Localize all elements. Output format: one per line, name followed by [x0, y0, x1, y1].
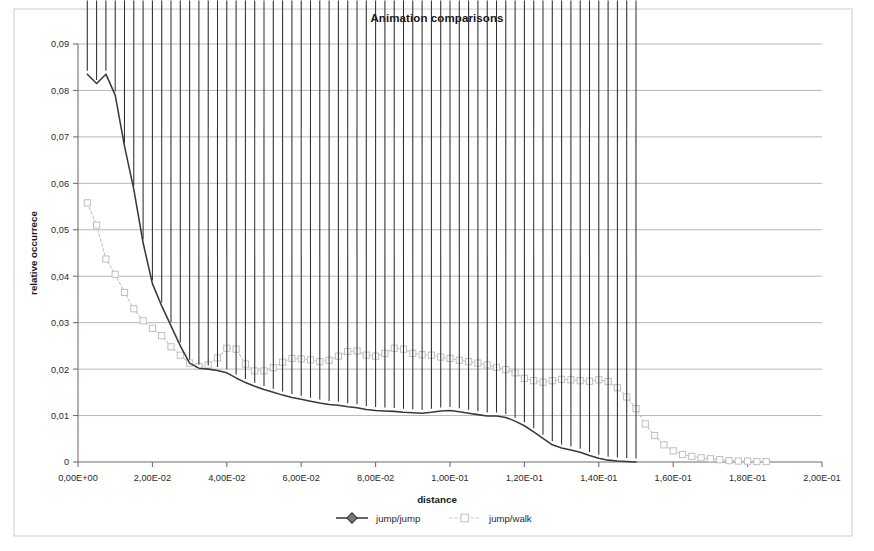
data-point-marker — [168, 344, 174, 350]
x-tick-label: 1,40E-01 — [580, 473, 617, 483]
x-tick-label: 0,00E+00 — [58, 473, 98, 483]
data-point-marker — [642, 421, 648, 427]
data-point-marker — [717, 457, 723, 463]
data-point-marker — [754, 458, 760, 464]
y-tick-label: 0,09 — [51, 39, 69, 49]
x-tick-label: 2,00E-02 — [134, 473, 171, 483]
legend-label-jump-walk: jump/walk — [488, 513, 532, 524]
y-tick-label: 0,01 — [51, 411, 69, 421]
animation-comparisons-chart: Animation comparisons 00,010,020,030,040… — [0, 0, 874, 551]
x-axis-label: distance — [417, 494, 457, 505]
data-point-marker — [652, 432, 658, 438]
data-point-marker — [661, 442, 667, 448]
data-point-marker — [726, 458, 732, 464]
x-tick-label: 1,80E-01 — [729, 473, 766, 483]
chart-container: Animation comparisons 00,010,020,030,040… — [0, 0, 874, 551]
data-point-marker — [103, 256, 109, 262]
legend-item-jump-walk[interactable]: jump/walk — [449, 513, 532, 524]
data-point-marker — [707, 456, 713, 462]
y-tick-label: 0,08 — [51, 86, 69, 96]
legend-marker-square-icon — [461, 514, 469, 522]
x-tick-label: 1,60E-01 — [655, 473, 692, 483]
data-point-marker — [84, 200, 90, 206]
chart-background — [0, 0, 874, 551]
data-point-marker — [679, 451, 685, 457]
x-tick-label: 2,00E-01 — [803, 473, 840, 483]
y-tick-label: 0,03 — [51, 318, 69, 328]
chart-title: Animation comparisons — [370, 12, 503, 24]
x-tick-label: 1,00E-01 — [431, 473, 468, 483]
y-tick-label: 0,06 — [51, 179, 69, 189]
y-tick-label: 0 — [64, 457, 69, 467]
data-point-marker — [159, 333, 165, 339]
legend-label-jump-jump: jump/jump — [375, 513, 420, 524]
y-axis-label: relative occurrece — [28, 211, 39, 295]
data-point-marker — [698, 455, 704, 461]
y-tick-label: 0,02 — [51, 365, 69, 375]
x-tick-label: 4,00E-02 — [208, 473, 245, 483]
x-tick-label: 1,20E-01 — [506, 473, 543, 483]
data-point-marker — [745, 458, 751, 464]
data-point-marker — [670, 448, 676, 454]
data-point-marker — [140, 318, 146, 324]
data-point-marker — [131, 306, 137, 312]
y-tick-label: 0,04 — [51, 272, 69, 282]
data-point-marker — [763, 458, 769, 464]
y-tick-label: 0,05 — [51, 225, 69, 235]
x-tick-label: 8,00E-02 — [357, 473, 394, 483]
data-point-marker — [177, 352, 183, 358]
data-point-marker — [121, 289, 127, 295]
data-point-marker — [112, 271, 118, 277]
y-tick-label: 0,07 — [51, 132, 69, 142]
x-tick-label: 6,00E-02 — [283, 473, 320, 483]
data-point-marker — [689, 453, 695, 459]
data-point-marker — [94, 222, 100, 228]
data-point-marker — [735, 458, 741, 464]
data-point-marker — [149, 325, 155, 331]
